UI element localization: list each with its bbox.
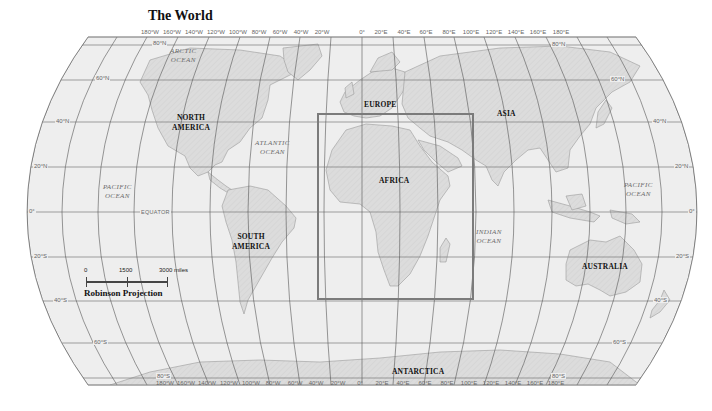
lon-label-top: 60°E (419, 29, 432, 35)
label-australia: AUSTRALIA (582, 262, 628, 272)
map-title: The World (148, 8, 213, 24)
lat-label-80n-right: 80°N (551, 41, 566, 47)
lon-label-top: 40°E (397, 29, 410, 35)
lon-label-bottom: 140°E (505, 380, 521, 386)
lon-label-bottom: 160°E (527, 380, 543, 386)
lon-label-bottom: 80°W (266, 380, 281, 386)
label-north-america: NORTH AMERICA (172, 113, 210, 133)
label-europe: EUROPE (364, 100, 396, 110)
label-pacific-ocean-east: PACIFIC OCEAN (624, 181, 653, 199)
label-asia: ASIA (497, 109, 516, 119)
scale-tick (167, 277, 168, 287)
label-atlantic-ocean: ATLANTIC OCEAN (255, 139, 290, 157)
lon-label-top: 100°E (463, 29, 479, 35)
lat-label-60n-right: 60°N (610, 76, 625, 82)
lon-label-bottom: 100°E (461, 380, 477, 386)
lon-label-bottom: 80°E (440, 380, 453, 386)
lon-label-bottom: 20°W (331, 380, 346, 386)
lon-label-top: 120°E (486, 29, 502, 35)
lon-label-bottom: 160°W (177, 380, 195, 386)
lon-label-bottom: 40°E (396, 380, 409, 386)
label-africa: AFRICA (379, 176, 409, 186)
label-south-america: SOUTH AMERICA (232, 232, 270, 252)
lon-label-bottom: 180°E (548, 380, 564, 386)
scale-tick (86, 277, 87, 287)
label-indian-ocean: INDIAN OCEAN (476, 228, 502, 246)
scale-tick (127, 277, 128, 287)
label-antarctica: ANTARCTICA (392, 367, 444, 377)
lat-label-60n-left: 60°N (95, 75, 110, 81)
lon-label-bottom: 120°W (220, 380, 238, 386)
lon-label-top: 140°E (508, 29, 524, 35)
lon-label-top: 0° (359, 29, 365, 35)
lat-label-80s-left: 80°S (156, 373, 171, 379)
lat-label-20n-right: 20°N (674, 163, 689, 169)
lon-label-bottom: 140°W (198, 380, 216, 386)
scale-label-3000: 3000 miles (159, 267, 188, 273)
lon-label-bottom: 60°E (418, 380, 431, 386)
lon-label-bottom: 60°W (288, 380, 303, 386)
label-pacific-ocean-west: PACIFIC OCEAN (103, 183, 132, 201)
lon-label-bottom: 180°W (156, 380, 174, 386)
lon-label-top: 160°W (163, 29, 181, 35)
lat-label-eq-right: 0° (688, 208, 696, 214)
africa-highlight-box[interactable] (317, 113, 474, 300)
lon-label-top: 180°W (141, 29, 159, 35)
lon-label-top: 120°W (207, 29, 225, 35)
lat-label-40n-left: 40°N (55, 118, 70, 124)
lat-label-40s-right: 40°S (653, 297, 668, 303)
lon-label-bottom: 40°W (309, 380, 324, 386)
lon-label-bottom: 100°W (242, 380, 260, 386)
scale-label-1500: 1500 (119, 267, 132, 273)
lat-label-80n-left: 80°N (152, 40, 167, 46)
lat-label-eq-left: 0° (28, 208, 36, 214)
scale-label-0: 0 (84, 267, 87, 273)
lat-label-60s-left: 60°S (93, 339, 108, 345)
lon-label-top: 180°E (553, 29, 569, 35)
lon-label-top: 20°E (374, 29, 387, 35)
lat-label-60s-right: 60°S (612, 339, 627, 345)
projection-label: Robinson Projection (84, 288, 163, 298)
lon-label-top: 40°W (294, 29, 309, 35)
lon-label-top: 80°W (252, 29, 267, 35)
lat-label-20n-left: 20°N (33, 163, 48, 169)
lat-label-20s-left: 20°S (33, 253, 48, 259)
lon-label-top: 60°W (273, 29, 288, 35)
lon-label-top: 20°W (315, 29, 330, 35)
lat-label-80s-right: 80°S (551, 373, 566, 379)
label-arctic-ocean: ARCTIC OCEAN (170, 47, 197, 65)
lon-label-top: 140°W (185, 29, 203, 35)
lon-label-top: 160°E (530, 29, 546, 35)
lon-label-bottom: 120°E (483, 380, 499, 386)
lon-label-top: 80°E (442, 29, 455, 35)
lon-label-bottom: 20°E (375, 380, 388, 386)
lat-label-20s-right: 20°S (675, 253, 690, 259)
lon-label-bottom: 0° (357, 380, 363, 386)
lat-label-40n-right: 40°N (652, 118, 667, 124)
lat-label-40s-left: 40°S (53, 297, 68, 303)
label-equator: EQUATOR (140, 209, 171, 215)
lon-label-top: 100°W (229, 29, 247, 35)
scale-bar: 0 1500 3000 miles Robinson Projection (84, 267, 224, 307)
